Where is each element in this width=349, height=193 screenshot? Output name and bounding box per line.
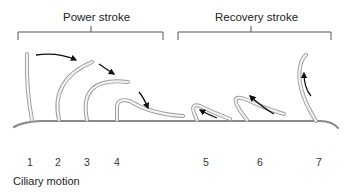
arrow-1-2: [36, 54, 76, 60]
cilium-4: [117, 100, 183, 120]
position-label-3: 3: [84, 156, 90, 168]
power-stroke-label: Power stroke: [63, 11, 130, 23]
position-label-4: 4: [114, 156, 120, 168]
position-label-7: 7: [316, 156, 322, 168]
recovery-stroke-label: Recovery stroke: [215, 11, 298, 23]
cilium-6: [236, 92, 291, 120]
cilia: [27, 54, 316, 121]
cilium-5: [193, 105, 230, 120]
cilium-7: [299, 55, 316, 121]
power-stroke-bracket: [18, 26, 163, 40]
arrow-2-3: [99, 64, 114, 74]
figure-caption: Ciliary motion: [13, 175, 80, 187]
cilium-1: [27, 54, 32, 120]
ciliary-motion-diagram: [0, 0, 349, 193]
position-label-1: 1: [27, 156, 33, 168]
recovery-stroke-bracket: [178, 26, 331, 40]
position-label-2: 2: [55, 156, 61, 168]
cell-surface: [14, 121, 338, 128]
position-label-5: 5: [203, 156, 209, 168]
position-label-6: 6: [257, 156, 263, 168]
